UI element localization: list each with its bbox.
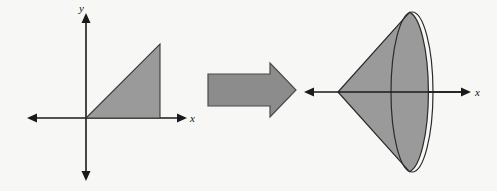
rightwards-block-arrow-icon <box>208 63 296 117</box>
left-y-axis-top-arrowhead <box>82 13 91 23</box>
right-x-axis-label: x <box>474 86 480 98</box>
left-y-axis-bottom-arrowhead <box>82 171 91 181</box>
figure-container: Revolving a triangular region about the … <box>0 0 497 191</box>
shaded-triangle-region <box>86 44 160 118</box>
left-x-axis-right-arrowhead <box>177 114 187 123</box>
left-y-axis-label: y <box>78 2 84 14</box>
left-x-axis-left-arrowhead <box>27 114 37 123</box>
left-panel-planar-region: x y <box>27 2 195 181</box>
right-x-axis-left-arrowhead <box>304 88 314 97</box>
transition-block-arrow <box>208 63 296 117</box>
revolution-diagram: Revolving a triangular region about the … <box>0 0 497 191</box>
right-panel-solid-of-revolution: x <box>304 12 480 172</box>
left-x-axis-label: x <box>189 112 195 124</box>
